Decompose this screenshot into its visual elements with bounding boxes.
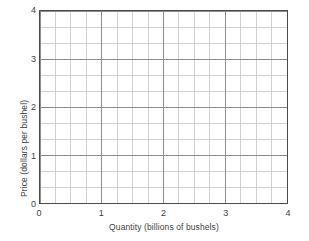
chart-figure: Price (dollars per bushel) 01234 01234 Q… — [0, 0, 309, 241]
x-tick-label: 0 — [24, 208, 54, 218]
y-axis-title: Price (dollars per bushel) — [19, 0, 33, 197]
x-tick-label: 2 — [149, 208, 179, 218]
x-axis-title: Quantity (billions of bushels) — [39, 222, 289, 232]
x-tick-label: 3 — [211, 208, 241, 218]
y-tick-label: 1 — [6, 151, 36, 161]
y-tick-label: 3 — [6, 54, 36, 64]
x-tick-label: 4 — [273, 208, 303, 218]
grid-lines — [40, 11, 287, 203]
y-tick-label: 4 — [6, 5, 36, 15]
x-tick-label: 1 — [86, 208, 116, 218]
y-tick-label: 2 — [6, 102, 36, 112]
plot-area — [39, 10, 288, 204]
